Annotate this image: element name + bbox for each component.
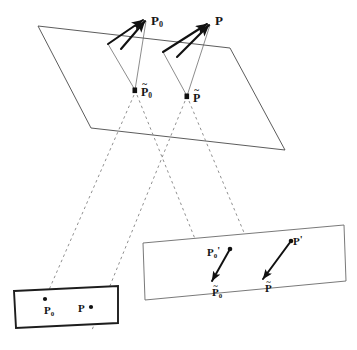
tilde-accent-icon: ~ [142,80,147,89]
scene-plane [38,26,285,150]
label-right-image-Ptilde0: ~P0 [212,287,222,300]
label-plane-Ptilde0-sub: 0 [148,91,152,100]
label-left-image-P0: P0 [44,305,54,318]
prime-mark-icon: ' [300,234,303,245]
scene-plane-outline [38,26,285,150]
right-image-dot-P0-prime [228,247,233,252]
marker-Ptilde0 [133,88,138,94]
label-left-image-P: P [78,303,85,314]
left-image-dot-P [89,305,93,309]
tilde-accent-icon: ~ [194,86,199,95]
label-plane-Ptilde: ~P [193,92,200,104]
tilde-accent-icon: ~ [266,278,270,287]
left-image-dot-P0 [43,297,47,301]
tilde-accent-icon: ~ [213,282,217,291]
label-right-image-P0-prime: P0' [207,246,220,259]
label-plane-Ptilde0-base: ~P [141,86,148,98]
label-scene-P: P [215,14,223,27]
prime-mark-icon: ' [217,245,220,256]
left-image-rectangle-outline [14,286,118,328]
label-scene-P0-base: P [151,13,159,28]
diagram-canvas: P0 P ~P0 ~P P0 P P0' P' ~P0 ~P [0,0,357,350]
label-plane-Ptilde0: ~P0 [141,86,152,99]
label-plane-Ptilde-base: ~P [193,92,200,104]
label-right-image-P-prime: P' [293,235,303,247]
right-image-plane [143,225,346,300]
label-right-image-Ptilde0-base: ~P [212,287,219,298]
label-scene-P0-sub: 0 [159,20,163,29]
diagram-vector-layer [0,0,357,350]
label-right-image-P-prime-base: P [293,235,300,247]
label-scene-P-base: P [215,13,223,28]
label-left-image-P0-base: P [44,304,51,316]
left-image-rectangle [14,286,118,328]
label-left-image-P-base: P [78,302,85,314]
label-right-image-P0-prime-base: P [207,246,214,258]
marker-Ptilde [185,94,190,100]
right-image-plane-outline [143,225,346,300]
label-right-image-Ptilde: ~P [265,283,272,294]
label-scene-P0: P0 [151,14,163,29]
label-right-image-Ptilde0-sub: 0 [219,292,222,299]
label-left-image-P0-sub: 0 [51,310,54,317]
label-right-image-Ptilde-base: ~P [265,283,272,294]
